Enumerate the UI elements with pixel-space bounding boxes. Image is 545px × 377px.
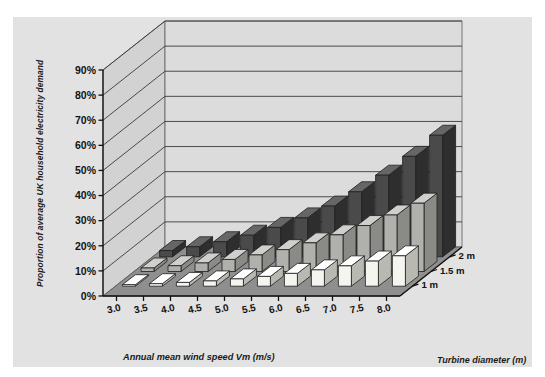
bar-chart-3d: 0%10%20%30%40%50%60%70%80%90%3.03.54.04.… [13,17,532,367]
x-tick-label: 6.5 [295,302,311,316]
y-tick-label: 30% [75,214,97,226]
y-tick-label: 20% [75,240,97,252]
y-tick-label: 40% [75,189,97,201]
x-tick-label: 4.0 [160,302,176,316]
chart-panel: Proportion of average UK household elect… [13,17,532,367]
x-tick-label: 5.5 [241,302,257,316]
z-tick-label: 2 m [459,250,476,261]
x-tick-label: 7.5 [349,302,365,316]
figure-root: Proportion of average UK household elect… [0,0,545,377]
x-tick-label: 8.0 [376,302,392,316]
x-tick-label: 5.0 [214,302,230,316]
y-tick-label: 60% [75,139,97,151]
y-tick-label: 10% [75,265,97,277]
x-tick-label: 3.0 [106,302,122,316]
x-tick-label: 7.0 [322,302,338,316]
x-tick-label: 3.5 [133,302,149,316]
y-tick-label: 90% [75,64,97,76]
y-tick-label: 80% [75,89,97,101]
y-tick-label: 50% [75,164,97,176]
x-tick-label: 6.0 [268,302,284,316]
y-tick-label: 0% [81,290,97,302]
x-tick-label: 4.5 [187,302,203,316]
y-tick-label: 70% [75,114,97,126]
z-tick-label: 1 m [421,279,438,290]
z-tick-label: 1.5 m [440,265,465,276]
